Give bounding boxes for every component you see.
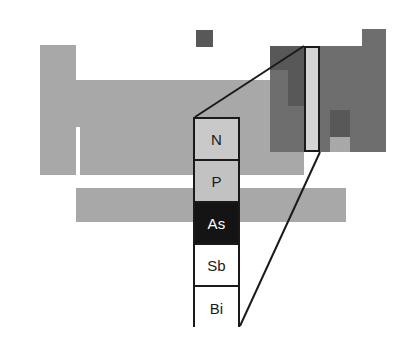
metalloid-patch-low (330, 110, 350, 137)
element-cell-arsenic: As (195, 203, 238, 245)
figure-root: NPAsSbBi (0, 0, 416, 360)
noble-gas-top-step (362, 29, 386, 47)
element-symbol-nitrogen: N (211, 131, 222, 148)
element-symbol-antimony: Sb (207, 257, 226, 274)
element-cell-phosphorus: P (195, 161, 238, 203)
hydrogen-cell (196, 30, 213, 47)
group-15-callout-column: NPAsSbBi (193, 117, 240, 327)
s-block-notch (76, 127, 80, 175)
nonmetal-patch-upper (270, 46, 288, 70)
element-symbol-arsenic: As (208, 215, 226, 232)
connector-line-bottom (240, 152, 320, 326)
metalloid-patch-tail (330, 137, 350, 152)
element-cell-nitrogen: N (195, 119, 238, 161)
element-symbol-bismuth: Bi (210, 300, 224, 317)
element-symbol-phosphorus: P (211, 173, 221, 190)
element-cell-antimony: Sb (195, 245, 238, 287)
nonmetal-patch-mid (288, 46, 304, 106)
group-15-highlight-column (304, 46, 320, 152)
element-cell-bismuth: Bi (195, 287, 238, 329)
